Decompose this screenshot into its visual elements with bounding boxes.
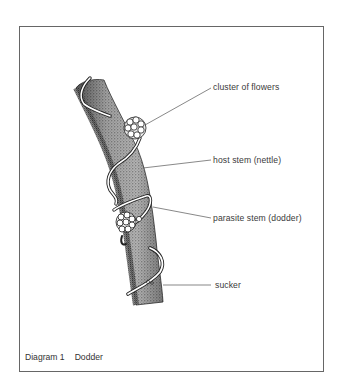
- caption-number: Diagram 1: [25, 352, 65, 362]
- label-cluster-of-flowers: cluster of flowers: [213, 82, 279, 92]
- label-sucker: sucker: [215, 280, 241, 290]
- diagram-caption: Diagram 1Dodder: [25, 352, 103, 362]
- caption-subject: Dodder: [75, 352, 103, 362]
- host-stem-shape: [76, 79, 163, 305]
- label-host-stem: host stem (nettle): [213, 155, 281, 165]
- flower-cluster-upper: [124, 117, 146, 139]
- label-parasite-stem: parasite stem (dodder): [213, 213, 302, 223]
- dodder-illustration: [0, 0, 337, 384]
